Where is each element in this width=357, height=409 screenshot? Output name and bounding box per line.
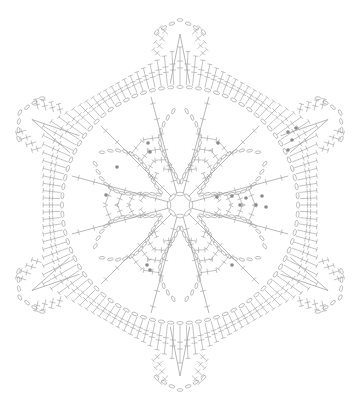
stitch-top-bar [139,199,143,202]
stitch-marker-dot [254,203,258,207]
chain-stitch-icon [230,307,237,313]
stitch-crossbar [134,146,139,150]
double-crochet-stitch [314,299,316,309]
double-crochet-stitch [144,137,160,140]
double-crochet-stitch [294,161,317,168]
chain-stitch-icon [194,121,198,127]
double-crochet-stitch [299,104,301,114]
chain-stitch-icon [225,254,231,260]
double-crochet-stitch [93,97,105,111]
stitch-top-bar [109,85,113,88]
chain-stitch-icon [125,214,131,217]
stitch-top-bar [317,188,318,193]
stitch-top-bar [246,322,250,325]
chain-stitch-icon [251,182,257,188]
double-crochet-stitch [200,270,216,273]
stitch-crossbar [306,259,308,264]
double-crochet-stitch [292,248,317,258]
double-crochet-stitch [143,68,149,89]
chain-stitch-icon [222,93,229,98]
stitch-crossbar [52,215,53,221]
stitch-crossbar [243,90,248,93]
double-crochet-stitch [256,298,268,312]
double-crochet-stitch [197,42,204,49]
double-crochet-stitch [195,34,203,41]
chain-stitch-icon [180,178,184,184]
stitch-top-bar [164,239,165,244]
double-crochet-stitch [43,191,60,193]
chain-stitch-icon [113,216,120,220]
stitch-top-bar [265,96,269,99]
chain-stitch-icon [24,104,30,110]
chain-stitch-icon [222,311,229,316]
double-crochet-stitch [234,312,242,327]
stitch-top-bar [43,181,44,186]
chain-stitch-icon [338,294,343,301]
stitch-top-bar [65,295,68,299]
stitch-top-bar [162,56,167,57]
stitch-crossbar [60,134,63,139]
stitch-top-bar [217,208,221,211]
chain-stitch-icon [154,29,160,35]
stitch-top-bar [316,181,317,186]
stitch-crossbar [191,167,192,173]
chain-stitch-icon [115,257,122,261]
chain-stitch-icon [122,149,129,154]
stitch-top-bar [216,268,220,271]
double-crochet-stitch [205,64,210,87]
double-crochet-stitch [43,299,45,309]
chain-stitch-icon [162,121,166,127]
chain-stitch-icon [95,235,101,241]
double-crochet-stitch [296,236,317,242]
stitch-crossbar [235,90,240,93]
stitch-crossbar [76,286,80,291]
stitch-top-bar [216,268,217,273]
stitch-crossbar [290,121,294,126]
stitch-top-bar [246,85,250,88]
chain-stitch-icon [290,238,295,245]
double-crochet-stitch [43,161,66,168]
double-crochet-stitch [299,296,301,306]
chain-stitch-icon [81,271,87,278]
double-crochet-stitch [43,242,66,249]
stitch-crossbar [112,317,117,320]
stitch-crossbar [119,317,124,320]
chain-stitch-icon [213,315,220,320]
chain-stitch-icon [182,231,186,238]
double-crochet-stitch [157,324,161,350]
chain-stitch-icon [154,375,160,381]
chain-stitch-icon [81,132,87,139]
chain-stitch-icon [16,268,21,275]
chain-stitch-icon [76,140,82,147]
chain-stitch-icon [169,384,176,388]
double-crochet-stitch [150,64,155,87]
double-crochet-stitch [160,27,168,34]
stitch-crossbar [163,72,169,73]
chain-stitch-icon [186,86,193,89]
stitch-crossbar [114,93,119,96]
double-crochet-stitch [155,42,162,49]
chain-stitch-icon [293,229,297,236]
double-crochet-stitch [131,141,141,154]
chain-stitch-icon [87,278,93,285]
chain-stitch-icon [125,192,131,195]
double-crochet-stitch [199,49,206,56]
stitch-crossbar [72,117,76,122]
stitch-crossbar [222,146,227,150]
double-crochet-stitch [43,198,60,199]
double-crochet-stitch [118,312,126,327]
chain-stitch-icon [296,192,299,199]
double-crochet-stitch [59,117,83,135]
double-crochet-stitch [157,60,161,86]
stitch-crossbar [191,337,197,338]
chain-stitch-icon [286,247,291,254]
stitch-crossbar [57,257,59,262]
chain-stitch-icon [166,289,170,296]
chain-stitch-icon [293,174,297,181]
stitch-crossbar [97,303,102,307]
stitch-crossbar [213,252,218,256]
stitch-crossbar [281,286,285,291]
stitch-crossbar [301,148,303,153]
chain-stitch-icon [149,214,155,218]
chain-stitch-icon [185,21,192,25]
